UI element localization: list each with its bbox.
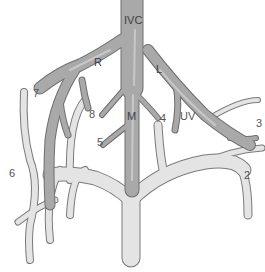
label-segment-3: 3 <box>256 118 262 129</box>
label-segment-6: 6 <box>9 168 15 179</box>
label-ivc: IVC <box>124 15 142 26</box>
label-segment-2: 2 <box>244 170 250 181</box>
label-segment-8: 8 <box>89 109 95 120</box>
label-right-hepatic-vein: R <box>94 57 102 68</box>
label-middle-hepatic-vein: M <box>127 111 136 122</box>
label-segment-4: 4 <box>160 113 166 124</box>
liver-vein-diagram <box>0 0 265 272</box>
label-umbilical-vein: UV <box>180 111 195 122</box>
label-left-hepatic-vein: L <box>156 64 162 75</box>
label-segment-7: 7 <box>33 88 39 99</box>
label-segment-5: 5 <box>97 137 103 148</box>
